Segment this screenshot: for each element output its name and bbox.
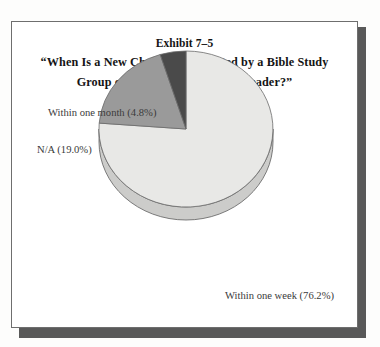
pie-label-within-month: Within one month (4.8%)	[48, 107, 156, 118]
pie-label-within-week: Within one week (76.2%)	[225, 290, 334, 301]
exhibit-number: Exhibit 7–5	[12, 35, 357, 52]
exhibit-title-line-2: Group or Sunday School Class Leader?”	[12, 72, 357, 92]
pie-slice-within-one-week-side	[99, 129, 273, 220]
page-background: Exhibit 7–5 “When Is a New Christian Con…	[0, 0, 380, 347]
title-block: Exhibit 7–5 “When Is a New Christian Con…	[12, 35, 357, 92]
exhibit-frame: Exhibit 7–5 “When Is a New Christian Con…	[11, 21, 358, 328]
exhibit-title-line-1: “When Is a New Christian Contacted by a …	[12, 52, 357, 72]
pie-label-na: N/A (19.0%)	[37, 144, 92, 155]
